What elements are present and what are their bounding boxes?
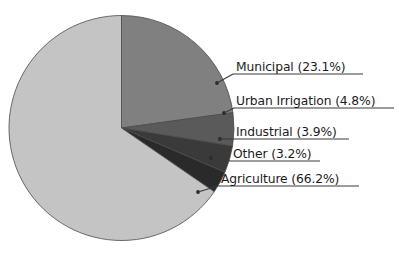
callout-leader-agriculture	[196, 186, 359, 194]
callout-leader-urban-irrigation	[222, 108, 394, 115]
pie-label-urban-irrigation: Urban Irrigation (4.8%)	[236, 94, 375, 108]
pie-slice-municipal	[122, 16, 233, 129]
callout-labels-group: Municipal (23.1%) Urban Irrigation (4.8%…	[221, 60, 375, 186]
pie-label-industrial: Industrial (3.9%)	[236, 125, 337, 139]
pie-chart-canvas: Municipal (23.1%) Urban Irrigation (4.8%…	[0, 0, 399, 255]
pie-chart-figure: Municipal (23.1%) Urban Irrigation (4.8%…	[0, 0, 399, 255]
callout-leader-municipal	[215, 74, 363, 85]
pie-label-municipal: Municipal (23.1%)	[236, 60, 345, 74]
pie-label-other: Other (3.2%)	[233, 147, 311, 161]
pie-label-agriculture: Agriculture (66.2%)	[221, 172, 339, 186]
pie-slices-group	[9, 16, 234, 241]
